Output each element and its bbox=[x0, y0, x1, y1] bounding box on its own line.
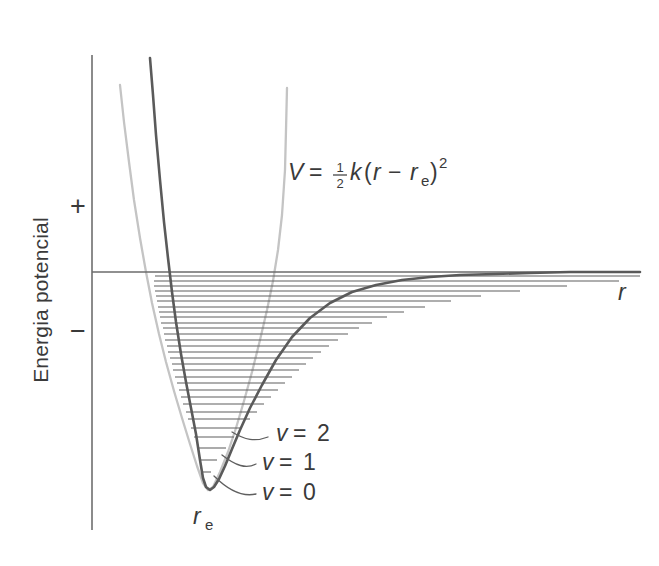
negative-sign-mark: − bbox=[70, 316, 86, 346]
vibrational-label-0: v=0 bbox=[262, 479, 316, 505]
positive-sign-mark: + bbox=[70, 191, 86, 221]
formula-equals: = bbox=[309, 159, 322, 185]
vibrational-level-labels: v=2v=1v=0 bbox=[262, 420, 330, 505]
vibrational-energy-levels bbox=[154, 276, 640, 472]
harmonic-formula-label: V = 1 2 k ( r − r e ) 2 bbox=[288, 154, 447, 191]
formula-var-re-subscript: e bbox=[421, 172, 429, 189]
leader-lines-group bbox=[214, 432, 268, 495]
vibrational-label-var: v bbox=[276, 420, 289, 446]
vibrational-label-value: 0 bbox=[303, 479, 316, 505]
vibrational-label-var: v bbox=[262, 449, 275, 475]
formula-fraction-numerator: 1 bbox=[336, 160, 343, 175]
equilibrium-distance-label: r e bbox=[193, 503, 213, 533]
equilibrium-distance-subscript: e bbox=[205, 516, 213, 533]
vibrational-label-1: v=1 bbox=[262, 449, 316, 475]
equilibrium-distance-base: r bbox=[193, 503, 202, 529]
vibrational-label-value: 1 bbox=[303, 449, 316, 475]
vibrational-label-var: v bbox=[262, 479, 275, 505]
formula-close-paren: ) bbox=[430, 159, 438, 185]
formula-exponent: 2 bbox=[439, 154, 447, 171]
formula-var-r: r bbox=[373, 159, 382, 185]
formula-lhs: V bbox=[288, 159, 306, 185]
vibrational-label-value: 2 bbox=[317, 420, 330, 446]
formula-force-constant: k bbox=[350, 159, 363, 185]
formula-var-re: r bbox=[410, 159, 419, 185]
vibrational-label-equals: = bbox=[293, 420, 306, 446]
vibrational-label-equals: = bbox=[279, 479, 292, 505]
vibrational-label-equals: = bbox=[279, 449, 292, 475]
formula-fraction-denominator: 2 bbox=[336, 176, 343, 191]
vibrational-label-2: v=2 bbox=[276, 420, 330, 446]
formula-open-paren: ( bbox=[364, 159, 372, 185]
morse-potential-figure: Energia potencial + − r r e V = 1 2 k ( … bbox=[0, 0, 659, 566]
y-axis-title: Energia potencial bbox=[29, 217, 52, 383]
x-axis-label: r bbox=[618, 279, 627, 305]
harmonic-parabola-curve bbox=[120, 85, 287, 490]
morse-potential-curve bbox=[150, 58, 640, 490]
figure-canvas: Energia potencial + − r r e V = 1 2 k ( … bbox=[0, 0, 659, 566]
formula-minus: − bbox=[388, 159, 401, 185]
